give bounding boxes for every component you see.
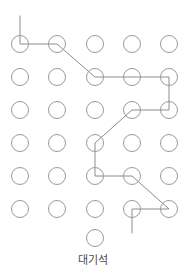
seat-node-r3c2[interactable] — [49, 102, 66, 119]
seat-node-r6c3[interactable] — [87, 201, 104, 218]
seat-node-r4c4[interactable] — [124, 135, 141, 152]
seat-node-wait1[interactable] — [87, 230, 104, 247]
seat-node-r6c1[interactable] — [12, 201, 29, 218]
seat-node-r2c2[interactable] — [49, 69, 66, 86]
seat-node-r1c3[interactable] — [87, 36, 104, 53]
seat-node-r3c3[interactable] — [87, 102, 104, 119]
seat-node-r5c1[interactable] — [12, 168, 29, 185]
seat-grid-svg — [0, 0, 186, 279]
seat-node-r1c4[interactable] — [124, 36, 141, 53]
seat-node-r4c2[interactable] — [49, 135, 66, 152]
seat-node-r5c2[interactable] — [49, 168, 66, 185]
seat-node-r5c5[interactable] — [161, 168, 178, 185]
seat-node-r3c1[interactable] — [12, 102, 29, 119]
seat-node-group — [12, 36, 178, 247]
seat-node-r4c1[interactable] — [12, 135, 29, 152]
seat-node-r6c2[interactable] — [49, 201, 66, 218]
seat-node-r1c5[interactable] — [161, 36, 178, 53]
grid-caption: 대기석 — [0, 254, 186, 267]
seat-node-r2c1[interactable] — [12, 69, 29, 86]
seat-node-r4c5[interactable] — [161, 135, 178, 152]
diagram-canvas: 대기석 — [0, 0, 186, 279]
